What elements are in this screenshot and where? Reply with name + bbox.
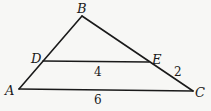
length-label-de: 4 [94, 65, 102, 79]
diagram-canvas: B D E A C 4 6 2 [0, 0, 211, 111]
vertex-label-a: A [4, 83, 14, 98]
length-label-ac: 6 [94, 93, 102, 107]
segment-ac [19, 89, 193, 91]
segment-bc [82, 16, 193, 91]
triangle-diagram: B D E A C 4 6 2 [0, 0, 211, 111]
vertex-label-e: E [151, 52, 162, 67]
segment-ab [19, 16, 82, 89]
vertex-label-b: B [76, 1, 87, 16]
segment-de [43, 61, 149, 62]
length-label-ec: 2 [174, 65, 182, 79]
vertex-label-d: D [30, 51, 42, 66]
vertex-label-c: C [195, 85, 205, 100]
